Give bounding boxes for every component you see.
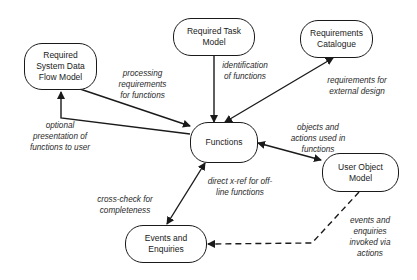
label-crosscheck: cross-check for completeness (90, 194, 160, 216)
node-label: Requirements Catalogue (310, 28, 363, 50)
label-external-design: requirements for external design (312, 75, 402, 97)
label-objects-actions: objects and actions used in functions (278, 122, 358, 155)
node-requirements-catalogue: Requirements Catalogue (300, 20, 373, 58)
label-events-invoked: events and enquiries invoked via actions (335, 215, 405, 259)
node-label: Events and Enquiries (145, 233, 188, 255)
node-required-system-data-flow-model: Required System Data Flow Model (24, 43, 97, 90)
node-label: User Object Model (338, 162, 383, 184)
node-required-task-model: Required Task Model (173, 18, 255, 56)
node-functions: Functions (190, 122, 258, 163)
node-label: Required System Data Flow Model (36, 50, 85, 83)
label-xref: direct x-ref for off- line functions (195, 176, 285, 198)
node-user-object-model: User Object Model (322, 153, 399, 192)
label-identification: identification of functions (210, 60, 280, 82)
node-label: Functions (206, 137, 243, 148)
label-optional: optional presentation of functions to us… (20, 120, 100, 153)
node-events-and-enquiries: Events and Enquiries (125, 225, 207, 263)
label-processing: processing requirements for functions (110, 68, 175, 101)
node-label: Required Task Model (187, 26, 241, 48)
